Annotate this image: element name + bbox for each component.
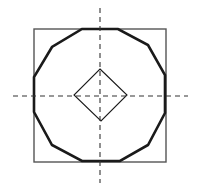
geometry-figure [0,0,197,196]
diagram-canvas [0,0,197,196]
center-diamond [74,69,127,121]
